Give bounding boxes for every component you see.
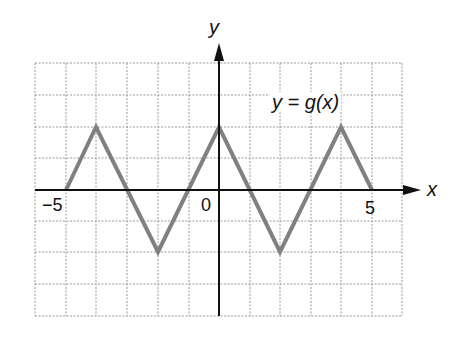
tick-label-5: 5 [365,199,375,217]
axes [35,58,405,316]
function-label: y = g(x) [270,92,341,112]
graph-canvas [0,0,461,341]
tick-label-neg5: −5 [42,196,63,214]
tick-label-origin: 0 [201,196,211,214]
y-axis-label: y [209,17,219,37]
x-axis-arrow-icon [403,185,421,195]
x-axis-label: x [427,179,437,199]
y-axis-arrow-icon [214,43,224,61]
